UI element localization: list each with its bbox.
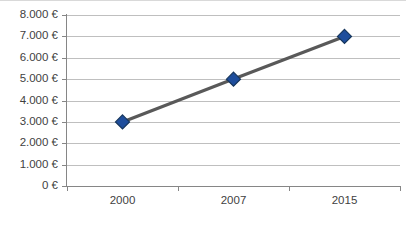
series-markers xyxy=(116,29,352,129)
data-point-marker xyxy=(338,29,352,43)
chart-container: 8.000 €7.000 €6.000 €5.000 €4.000 €3.000… xyxy=(0,0,406,228)
data-point-marker xyxy=(116,115,130,129)
data-point-marker xyxy=(227,72,241,86)
data-series xyxy=(0,1,406,228)
